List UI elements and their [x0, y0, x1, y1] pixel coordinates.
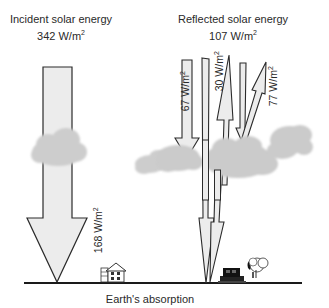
incident-title-value: 342 W/m2	[2, 26, 120, 43]
car-icon	[218, 268, 246, 283]
incident-title-line1: Incident solar energy	[2, 13, 120, 26]
house-icon	[101, 263, 126, 282]
energy-diagram	[0, 0, 329, 308]
incident-arrow	[27, 67, 87, 282]
arrow-label-168: 168 W/m2	[92, 207, 105, 253]
tree-icon	[247, 258, 268, 278]
reflected-title-value: 107 W/m2	[170, 26, 296, 43]
arrow-label-30: 30 W/m2	[213, 51, 226, 91]
incident-title: Incident solar energy 342 W/m2	[2, 13, 120, 43]
reflected-title: Reflected solar energy 107 W/m2	[170, 13, 296, 43]
arrow-label-77: 77 W/m2	[267, 66, 280, 106]
earth-absorption-label: Earth's absorption	[90, 293, 210, 306]
cloud-icon-right	[156, 125, 313, 178]
arrow-label-67: 67 W/m2	[179, 71, 192, 111]
reflected-title-line1: Reflected solar energy	[170, 13, 296, 26]
